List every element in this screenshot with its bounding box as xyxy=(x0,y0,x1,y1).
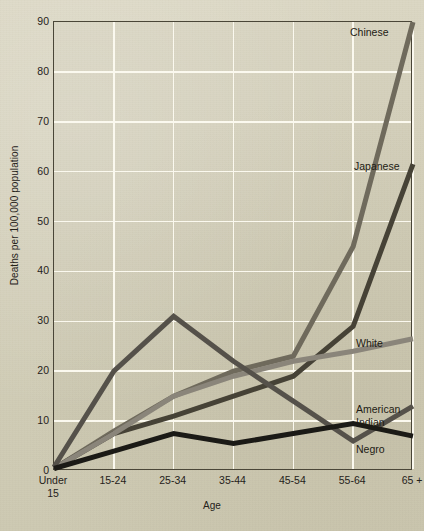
series-line xyxy=(54,22,413,469)
y-axis-ticks: 0102030405060708090 xyxy=(0,21,49,470)
x-axis-tick-label: 65 + xyxy=(377,474,424,487)
series-label-negro: Negro xyxy=(356,443,385,456)
series-label-american-indian: American Indian xyxy=(356,403,400,428)
chart-page: 0102030405060708090 Deaths per 100,000 p… xyxy=(0,0,424,531)
series-label-japanese: Japanese xyxy=(354,160,400,173)
y-axis-tick-label: 10 xyxy=(3,415,49,426)
series-label-white: White xyxy=(356,337,383,350)
x-axis-label-text: Age xyxy=(203,500,221,511)
x-axis-label: Age xyxy=(0,500,424,511)
y-axis-label-text: Deaths per 100,000 population xyxy=(9,146,20,286)
y-axis-tick-label: 30 xyxy=(3,315,49,326)
y-axis-label: Deaths per 100,000 population xyxy=(9,116,20,316)
series-label-chinese: Chinese xyxy=(350,26,389,39)
y-axis-tick-label: 90 xyxy=(3,16,49,27)
y-axis-tick-label: 20 xyxy=(3,365,49,376)
y-axis-tick-label: 80 xyxy=(3,66,49,77)
